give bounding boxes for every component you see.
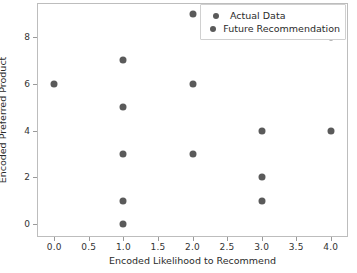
scatter-chart-figure: 0.00.51.01.52.02.53.03.54.0 02468 Encode… bbox=[0, 0, 357, 273]
data-point bbox=[189, 10, 196, 17]
x-tick-label: 3.0 bbox=[254, 242, 269, 252]
x-axis-label: Encoded Likelihood to Recommend bbox=[37, 255, 348, 266]
data-point bbox=[258, 174, 265, 181]
data-point bbox=[51, 80, 58, 87]
legend-marker-icon bbox=[205, 13, 227, 19]
x-tick-label: 2.5 bbox=[220, 242, 235, 252]
x-tick-mark bbox=[296, 237, 297, 241]
y-tick-label: 6 bbox=[24, 79, 30, 89]
x-tick-mark bbox=[89, 237, 90, 241]
x-tick-label: 4.0 bbox=[323, 242, 338, 252]
legend-item-label: Actual Data bbox=[227, 10, 285, 21]
x-tick-mark bbox=[193, 237, 194, 241]
x-tick-label: 1.0 bbox=[116, 242, 131, 252]
x-tick-label: 1.5 bbox=[150, 242, 165, 252]
data-point bbox=[120, 57, 127, 64]
data-point bbox=[327, 127, 334, 134]
y-tick-mark bbox=[33, 177, 37, 178]
x-tick-mark bbox=[158, 237, 159, 241]
y-tick-label: 0 bbox=[24, 219, 30, 229]
x-tick-label: 3.5 bbox=[289, 242, 304, 252]
data-point bbox=[120, 221, 127, 228]
x-tick-mark bbox=[54, 237, 55, 241]
data-point bbox=[120, 150, 127, 157]
data-point bbox=[120, 197, 127, 204]
x-tick-label: 2.0 bbox=[185, 242, 200, 252]
legend-item-actual-data: Actual Data bbox=[205, 9, 340, 22]
x-tick-mark bbox=[227, 237, 228, 241]
data-point bbox=[258, 197, 265, 204]
legend-item-label: Future Recommendation bbox=[220, 23, 340, 34]
y-tick-label: 8 bbox=[24, 32, 30, 42]
y-tick-label: 2 bbox=[24, 172, 30, 182]
legend-item-future-recommendation: Future Recommendation bbox=[205, 22, 340, 35]
y-tick-mark bbox=[33, 37, 37, 38]
y-axis-label: Encoded Preferred Product bbox=[0, 57, 8, 184]
legend-marker-icon bbox=[205, 26, 220, 32]
y-tick-mark bbox=[33, 131, 37, 132]
data-point bbox=[189, 150, 196, 157]
x-tick-mark bbox=[123, 237, 124, 241]
y-tick-mark bbox=[33, 84, 37, 85]
x-tick-mark bbox=[331, 237, 332, 241]
x-tick-label: 0.5 bbox=[81, 242, 96, 252]
x-tick-label: 0.0 bbox=[47, 242, 62, 252]
x-tick-mark bbox=[262, 237, 263, 241]
data-point bbox=[189, 80, 196, 87]
chart-legend: Actual Data Future Recommendation bbox=[200, 4, 346, 40]
data-point bbox=[258, 127, 265, 134]
y-tick-label: 4 bbox=[24, 126, 30, 136]
y-tick-mark bbox=[33, 224, 37, 225]
data-point bbox=[120, 104, 127, 111]
